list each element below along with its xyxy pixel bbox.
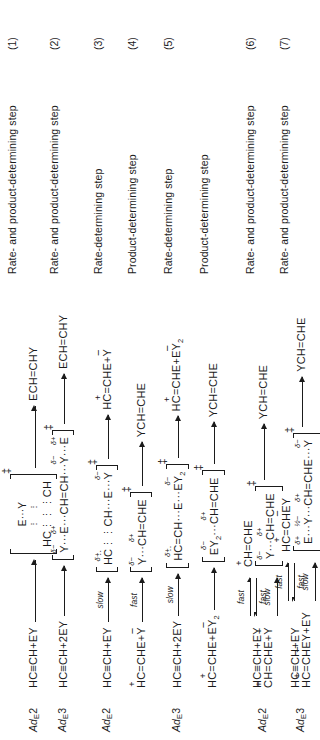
plus-charge-icon-8: + xyxy=(293,673,294,678)
step-note-6: Product-determining step xyxy=(198,154,210,274)
step-note-5: Rate-determining step xyxy=(162,169,174,274)
equation-number-3: (3) xyxy=(92,37,104,50)
minus-charge-icon-8: − xyxy=(292,646,294,653)
equation-number-1: (1) xyxy=(6,37,18,50)
equation-number-2: (2) xyxy=(48,37,60,50)
equation-number-4: (4) xyxy=(126,37,138,50)
equation-number-5: (5) xyxy=(162,37,174,50)
step-note-4: Product-determining step xyxy=(126,154,138,274)
step-note-3: Rate-determining step xyxy=(92,169,104,274)
step-note-7: Rate- and product-determining step xyxy=(244,105,256,274)
reactant-stack-8: HC≡CH+EY HC+=CHEY−+EY xyxy=(290,612,294,688)
step-note-2: Rate- and product-determining step xyxy=(48,105,60,274)
equation-number-7: (7) xyxy=(278,37,290,50)
reaction-scheme-sheet: AdE2 HC≡CH+EY ‡ E···Y ⋮ ⋮ HC⋮⋮⋮CH xyxy=(0,0,294,740)
reaction-arrow-8b xyxy=(291,377,294,427)
equation-number-6: (6) xyxy=(244,37,256,50)
step-note-8: Rate- and product-determining step xyxy=(278,105,290,274)
step-notes-column: Rate- and product-determining step (1) R… xyxy=(0,16,286,740)
step-note-1: Rate- and product-determining step xyxy=(6,105,18,274)
rotated-page-wrapper: AdE2 HC≡CH+EY ‡ E···Y ⋮ ⋮ HC⋮⋮⋮CH xyxy=(0,0,294,740)
transition-state-8: ‡ δ+E···½−Y···δ+CH=CHE···δ−Y xyxy=(293,433,294,551)
